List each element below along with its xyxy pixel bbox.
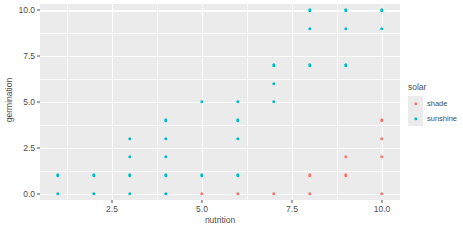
data-point	[344, 27, 347, 30]
x-axis-tick-label: 2.5	[106, 204, 118, 214]
x-axis-tick-mark	[112, 200, 113, 203]
data-point	[344, 64, 347, 67]
data-point	[344, 155, 347, 158]
y-axis-tick-label: 2.5	[23, 143, 35, 153]
x-axis-tick-area: 2.55.07.510.0	[40, 200, 400, 214]
gridline-y-major	[40, 148, 400, 149]
data-point	[128, 155, 131, 158]
legend-title: solar	[408, 82, 463, 92]
y-axis-label-text: germination	[4, 78, 14, 122]
x-axis-label: nutrition	[40, 215, 400, 225]
y-axis-tick-label: 7.5	[23, 51, 35, 61]
legend-item-sunshine: sunshine	[408, 111, 463, 126]
x-axis-tick-mark	[202, 200, 203, 203]
data-point	[92, 174, 95, 177]
data-point	[344, 174, 347, 177]
data-point	[236, 119, 239, 122]
legend-items: shadesunshine	[408, 96, 463, 126]
data-point	[236, 174, 239, 177]
x-axis-tick-label: 5.0	[196, 204, 208, 214]
x-axis-tick-mark	[292, 200, 293, 203]
data-point	[128, 174, 131, 177]
legend-key-swatch	[408, 111, 423, 126]
gridline-y-minor	[40, 171, 400, 172]
scatter-plot-figure: germination 0.02.55.07.510.0 2.55.07.510…	[0, 0, 463, 244]
data-point	[308, 174, 311, 177]
data-point	[164, 155, 167, 158]
y-axis-tick-label: 5.0	[23, 97, 35, 107]
data-point	[164, 137, 167, 140]
data-point	[272, 82, 275, 85]
legend-key-swatch	[408, 96, 423, 111]
y-axis-tick-label: 10.0	[18, 5, 35, 15]
legend-key-dot	[414, 117, 417, 120]
data-point	[164, 174, 167, 177]
x-axis-tick-label: 10.0	[374, 204, 391, 214]
y-axis-tick-area: 0.02.55.07.510.0	[14, 0, 40, 200]
legend-key-dot	[414, 102, 417, 105]
y-axis-tick-label: 0.0	[23, 189, 35, 199]
data-point	[236, 137, 239, 140]
data-point	[56, 174, 59, 177]
gridline-y-minor	[40, 79, 400, 80]
legend: solar shadesunshine	[408, 82, 463, 126]
legend-item-label: sunshine	[427, 114, 457, 123]
gridline-y-major	[40, 56, 400, 57]
gridline-y-minor	[40, 33, 400, 34]
x-axis-tick-mark	[382, 200, 383, 203]
gridline-y-major	[40, 102, 400, 103]
data-point	[272, 64, 275, 67]
legend-item-label: shade	[427, 99, 447, 108]
plot-panel	[40, 4, 400, 200]
data-point	[128, 137, 131, 140]
gridline-y-minor	[40, 125, 400, 126]
x-axis-tick-label: 7.5	[286, 204, 298, 214]
data-point	[164, 119, 167, 122]
data-point	[308, 27, 311, 30]
legend-item-shade: shade	[408, 96, 463, 111]
data-point	[308, 64, 311, 67]
